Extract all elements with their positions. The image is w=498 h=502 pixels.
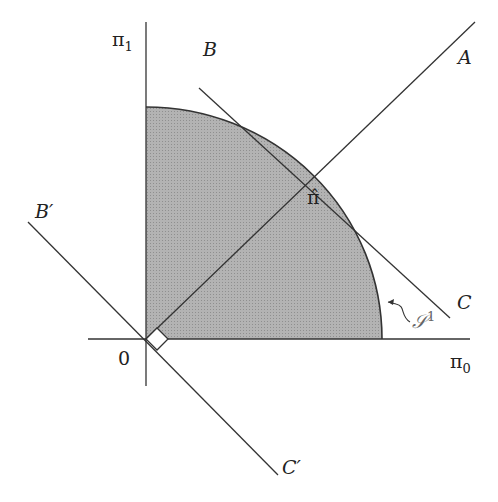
label-C: C [457,293,472,312]
label-pi-hat: π̂ [307,188,320,207]
pointer-arrow [388,302,410,322]
label-B-prime: B′ [35,202,53,221]
label-A: A [458,48,472,67]
label-B: B [203,40,217,59]
label-set-S1: 𝒮1 [412,310,435,331]
diagram-svg [0,0,498,502]
x-axis-label: π0 [450,352,471,375]
diagram: π1 π0 0 A B C B′ C′ π̂ 𝒮1 [0,0,498,502]
origin-label: 0 [118,349,130,368]
y-axis-label: π1 [112,30,133,53]
label-C-prime: C′ [282,458,301,477]
